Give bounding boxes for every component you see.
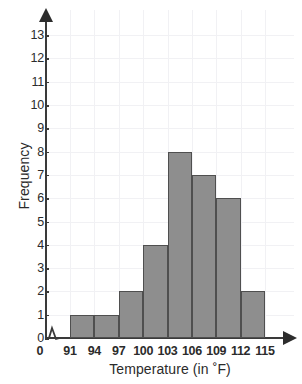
- y-tick-mark: [45, 222, 49, 224]
- histogram-bar: [241, 291, 265, 338]
- y-tick-mark: [45, 315, 49, 317]
- histogram-bar: [143, 245, 167, 338]
- y-axis-title: Frequency: [16, 106, 32, 246]
- y-tick-mark: [45, 82, 49, 84]
- x-axis-title: Temperature (in ˚F): [46, 361, 294, 377]
- histogram-chart: 012345678910111213 919497100103106109112…: [0, 0, 302, 384]
- histogram-bar: [119, 291, 143, 338]
- y-tick-mark: [45, 128, 49, 130]
- y-tick-mark: [45, 175, 49, 177]
- y-tick-mark: [45, 268, 49, 270]
- y-tick-mark: [45, 35, 49, 37]
- histogram-bar: [168, 152, 192, 338]
- y-tick-mark: [45, 152, 49, 154]
- histogram-bar: [192, 175, 216, 338]
- y-tick-mark: [45, 58, 49, 60]
- y-tick-mark: [45, 338, 49, 340]
- y-tick-mark: [45, 105, 49, 107]
- y-tick-mark: [45, 245, 49, 247]
- histogram-bar: [70, 315, 94, 338]
- histogram-bar: [94, 315, 118, 338]
- y-tick-mark: [45, 198, 49, 200]
- y-tick-mark: [45, 291, 49, 293]
- histogram-bar: [216, 198, 240, 338]
